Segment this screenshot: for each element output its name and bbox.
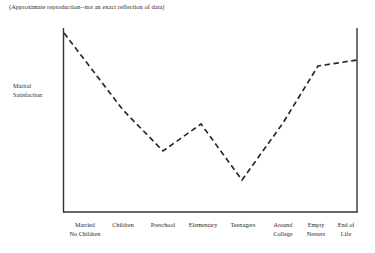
x-axis-tick-label: Preschool: [151, 221, 175, 230]
x-axis-tick-label: Elementary: [189, 221, 218, 230]
x-axis-labels: MarriedNo ChildrenChildrenPreschoolEleme…: [0, 221, 375, 249]
x-axis-tick-label-line1: Around: [274, 221, 293, 228]
x-axis-tick-label: MarriedNo Children: [70, 221, 101, 238]
x-axis-tick-label-line1: Empty: [308, 221, 325, 228]
marital-satisfaction-data-line: [64, 33, 357, 180]
x-axis-tick-label: Children: [112, 221, 134, 230]
x-axis-tick-label: End ofLife: [338, 221, 355, 238]
x-axis-tick-label-line1: Teenagers: [231, 221, 256, 228]
x-axis-tick-label-line1: End of: [338, 221, 355, 228]
x-axis-tick-label: EmptyNesters: [307, 221, 326, 238]
x-axis-tick-label-line1: Children: [112, 221, 134, 228]
x-axis-tick-label-line2: Life: [338, 230, 355, 239]
x-axis-tick-label: Teenagers: [231, 221, 256, 230]
x-axis-tick-label: AroundCollege: [273, 221, 292, 238]
x-axis-tick-label-line1: Married: [75, 221, 95, 228]
x-axis-tick-label-line1: Elementary: [189, 221, 218, 228]
plot-area: [0, 0, 375, 253]
x-axis-tick-label-line2: No Children: [70, 230, 101, 239]
x-axis-tick-label-line2: Nesters: [307, 230, 326, 239]
chart-figure: (Approximate reproduction--not an exact …: [0, 0, 375, 253]
x-axis-tick-label-line2: College: [273, 230, 292, 239]
x-axis-tick-label-line1: Preschool: [151, 221, 175, 228]
